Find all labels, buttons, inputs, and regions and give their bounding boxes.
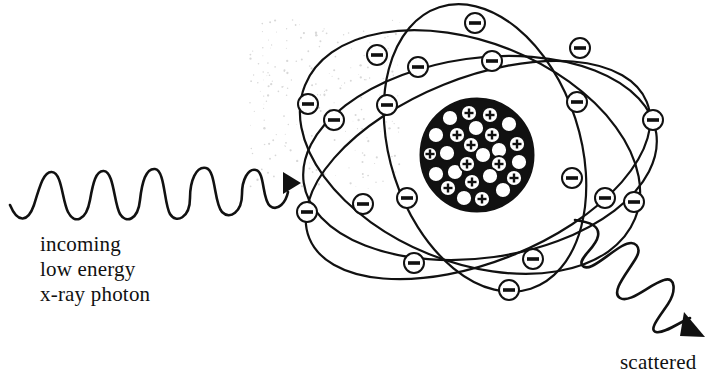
- proton-icon: [464, 174, 480, 190]
- electron-icon: [482, 51, 502, 71]
- electron-icon: [297, 202, 317, 222]
- outgoing-photon-label-partial: scattered: [620, 350, 696, 373]
- neutron-icon: [475, 147, 491, 163]
- electron-icon: [570, 38, 590, 58]
- neutron-icon: [482, 168, 498, 184]
- label-line-3: x-ray photon: [40, 282, 150, 307]
- electron-icon: [595, 188, 615, 208]
- proton-icon: [509, 136, 525, 152]
- electron-icon: [324, 110, 344, 130]
- proton-icon: [482, 107, 498, 123]
- proton-icon: [449, 127, 465, 143]
- electron-icon: [367, 45, 387, 65]
- neutron-icon: [442, 110, 458, 126]
- neutron-icon: [456, 190, 472, 206]
- incoming-wave-path: [10, 168, 288, 219]
- electron-icon: [465, 13, 485, 33]
- electron-icon: [377, 95, 397, 115]
- electron-icon: [643, 110, 663, 130]
- electron-icon: [404, 253, 424, 273]
- electron-icon: [408, 57, 428, 77]
- proton-icon: [423, 147, 437, 161]
- label-line-1: incoming: [40, 232, 150, 257]
- neutron-icon: [439, 145, 455, 161]
- arrowhead-icon: [680, 312, 705, 337]
- outgoing-photon-wave: [575, 220, 705, 337]
- incoming-photon-wave: [10, 168, 301, 219]
- electron-icon: [562, 168, 582, 188]
- electron-icon: [624, 192, 644, 212]
- proton-icon: [440, 180, 456, 196]
- outgoing-wave-path: [575, 220, 690, 332]
- incoming-photon-label: incoming low energy x-ray photon: [40, 232, 150, 307]
- electron-icon: [298, 94, 318, 114]
- nucleus: [421, 99, 533, 211]
- neutron-icon: [428, 166, 444, 182]
- proton-icon: [474, 191, 490, 207]
- neutron-icon: [511, 154, 527, 170]
- neutron-icon: [495, 182, 511, 198]
- electron-icon: [397, 188, 417, 208]
- arrowhead-icon: [283, 172, 301, 194]
- neutron-icon: [468, 120, 484, 136]
- label-line-2: low energy: [40, 257, 150, 282]
- neutron-icon: [501, 116, 517, 132]
- electron-icon: [523, 249, 543, 269]
- proton-icon: [484, 127, 500, 143]
- proton-icon: [461, 105, 477, 121]
- proton-icon: [459, 156, 475, 172]
- neutron-icon: [428, 127, 444, 143]
- electron-icon: [353, 194, 373, 214]
- electron-icon: [499, 280, 519, 300]
- electron-icon: [567, 92, 587, 112]
